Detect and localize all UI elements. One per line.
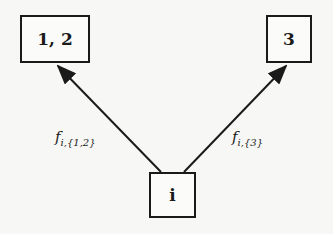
edge-label-i-12: fi,{1,2} — [55, 128, 96, 148]
node-label: 1, 2 — [37, 29, 73, 49]
node-label: 3 — [283, 29, 295, 49]
node-label: i — [169, 185, 175, 205]
edge-i-to-3 — [184, 66, 286, 172]
edge-i-to-12 — [58, 66, 161, 172]
node-1-2: 1, 2 — [20, 15, 90, 63]
node-i: i — [149, 172, 196, 218]
node-3: 3 — [266, 15, 312, 63]
edge-label-i-3: fi,{3} — [232, 128, 263, 148]
